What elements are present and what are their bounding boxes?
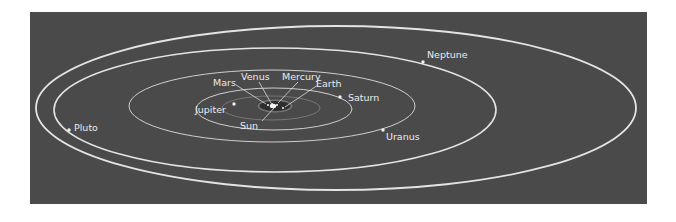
planet-label-venus: Venus xyxy=(241,71,270,82)
planet-dot-uranus xyxy=(381,128,384,131)
solar-system-diagram: PlutoNeptuneUranusSaturnJupiterEarthMerc… xyxy=(0,0,676,222)
planet-dot-saturn xyxy=(338,95,341,98)
planet-dot-mercury xyxy=(276,104,278,106)
dark-panel-background xyxy=(30,12,647,204)
planet-label-uranus: Uranus xyxy=(386,131,420,142)
sun-label: Sun xyxy=(240,120,258,131)
planet-label-pluto: Pluto xyxy=(74,122,98,133)
planet-dot-mars xyxy=(267,104,269,106)
orbit-diagram-canvas: PlutoNeptuneUranusSaturnJupiterEarthMerc… xyxy=(0,0,676,222)
planet-label-saturn: Saturn xyxy=(348,92,379,103)
planet-dot-pluto xyxy=(67,128,70,131)
planet-dot-jupiter xyxy=(232,102,235,105)
planet-label-jupiter: Jupiter xyxy=(194,104,226,115)
sun-layer xyxy=(270,104,276,108)
planet-dot-earth xyxy=(282,107,284,109)
planet-label-mars: Mars xyxy=(213,77,236,88)
planet-dot-neptune xyxy=(421,60,424,63)
planet-label-mercury: Mercury xyxy=(282,71,321,82)
sun-icon xyxy=(270,104,276,108)
planet-label-neptune: Neptune xyxy=(427,49,468,60)
